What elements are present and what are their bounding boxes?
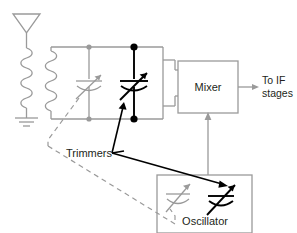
oscillator-to-mixer-arrow: [205, 112, 212, 175]
schematic-canvas: Mixer To IF stages Oscillator: [0, 0, 297, 233]
trimmers-label: Trimmers: [66, 147, 113, 159]
rf-tuning-capacitor: [120, 43, 148, 122]
circuit-diagram: Mixer To IF stages Oscillator: [0, 0, 297, 233]
oscillator-label: Oscillator: [182, 215, 228, 227]
mixer-label: Mixer: [195, 81, 222, 93]
tank-coil-icon: [45, 51, 56, 111]
antenna-icon: [13, 14, 40, 48]
to-if-stages-label-line1: To IF: [262, 74, 285, 86]
mixer-to-if-arrow: [238, 84, 259, 90]
rf-trimmer-capacitor: [76, 44, 102, 121]
to-if-stages-label-line2: stages: [262, 87, 293, 99]
trimmers-leader-gray-dashed: [48, 98, 175, 224]
antenna-coil-icon: [21, 48, 32, 118]
ground-icon: [15, 118, 38, 126]
tank-circuit-wires: [51, 47, 178, 119]
